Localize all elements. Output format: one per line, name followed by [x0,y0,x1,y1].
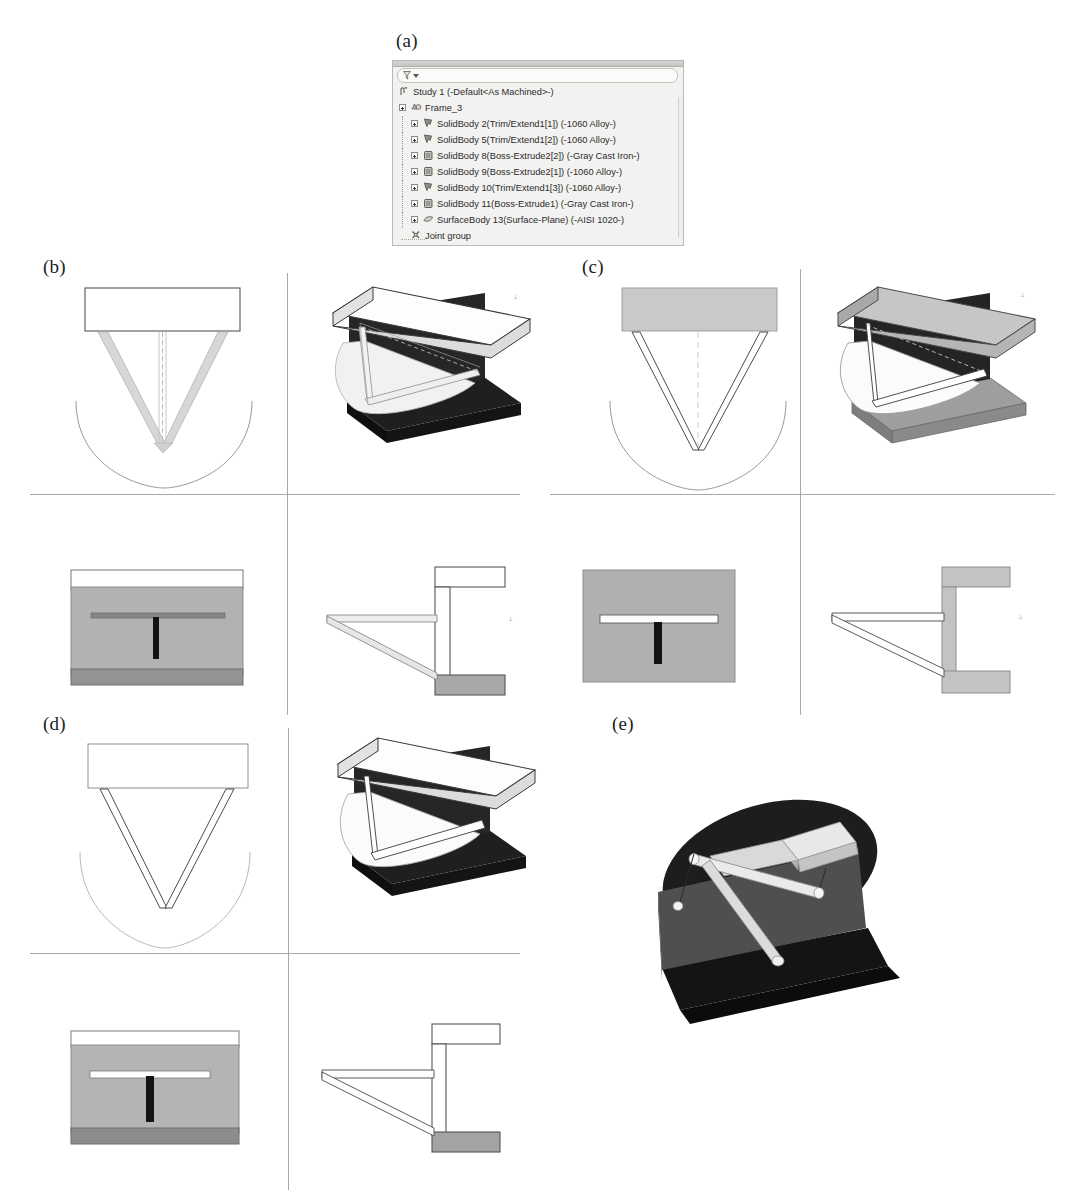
tree-row-label: SolidBody 11(Boss-Extrude1) (-Gray Cast … [437,196,634,212]
tree-row[interactable]: SolidBody 10(Trim/Extend1[3]) (-1060 All… [395,180,677,196]
quadrant-panel-b: ⊥ ⊥ [30,255,550,715]
tree-row-label: SolidBody 8(Boss-Extrude2[2]) (-Gray Cas… [437,148,640,164]
tree-expander-icon[interactable] [411,184,418,191]
tree-row-label: Joint group [425,228,471,244]
origin-marker: ⊥ [513,294,518,300]
isometric-view-d[interactable] [330,736,545,926]
quadrant-divider-horizontal [30,494,520,495]
tree-row[interactable]: SolidBody 8(Boss-Extrude2[2]) (-Gray Cas… [395,148,677,164]
tree-row-label: Frame_3 [425,100,462,116]
funnel-filter-icon [403,71,411,80]
origin-marker: ⊥ [1020,292,1025,298]
tree-row-label: Study 1 (-Default<As Machined>-) [413,84,554,100]
tree-guide-line [402,148,404,164]
quadrant-divider-horizontal [30,953,520,954]
top-view-b[interactable] [68,567,248,697]
tree-expander-icon[interactable] [411,168,418,175]
panel-label-a: (a) [396,30,418,52]
quadrant-divider-vertical [287,273,288,715]
tree-guide-line [402,180,404,196]
tree-row[interactable]: SolidBody 9(Boss-Extrude2[1]) (-1060 All… [395,164,677,180]
front-view-b[interactable] [46,283,276,483]
tree-expander-icon[interactable] [399,104,406,111]
tree-guide-line [402,164,404,180]
tree-row-label: SolidBody 9(Boss-Extrude2[1]) (-1060 All… [437,164,622,180]
origin-marker: ⊥ [508,616,513,622]
tree-expander-icon[interactable] [411,120,418,127]
right-view-d[interactable] [320,1022,520,1160]
tree-guide-line [402,132,404,148]
boss-extrude-body-icon [423,166,434,177]
isometric-view-c[interactable]: ⊥ [830,283,1045,473]
front-view-d[interactable] [50,740,280,940]
feature-tree-panel[interactable]: Study 1 (-Default<As Machined>-) Frame_3… [392,60,684,246]
boss-extrude-body-icon [423,198,434,209]
origin-marker: ⊥ [1018,614,1023,620]
tree-row[interactable]: SolidBody 11(Boss-Extrude1) (-Gray Cast … [395,196,677,212]
boss-extrude-body-icon [423,150,434,161]
tree-more-indicator [401,239,425,243]
top-view-c[interactable] [580,567,740,687]
quadrant-divider-horizontal [550,494,1055,495]
tree-row-list: Study 1 (-Default<As Machined>-) Frame_3… [395,84,677,244]
quadrant-panel-d [30,710,550,1190]
tree-row[interactable]: Study 1 (-Default<As Machined>-) [395,84,677,100]
tree-guide-line [402,212,404,228]
tree-guide-line [402,116,404,132]
isometric-view-b[interactable]: ⊥ [325,283,540,473]
tree-expander-icon[interactable] [411,216,418,223]
tree-guide-line [402,196,404,212]
tree-expander-icon[interactable] [411,136,418,143]
tree-row[interactable]: SurfaceBody 13(Surface-Plane) (-AISI 102… [395,212,677,228]
tree-row-label: SolidBody 2(Trim/Extend1[1]) (-1060 Allo… [437,116,616,132]
chevron-down-icon[interactable] [413,74,419,78]
tree-scrollbar[interactable] [678,97,683,237]
tree-title-strip [393,61,683,67]
trim-extend-body-icon [423,118,434,129]
render-panel-e [600,710,1060,1130]
right-view-c[interactable]: ⊥ [830,563,1030,698]
quadrant-panel-c: ⊥ ⊥ [520,255,1060,715]
tree-row[interactable]: Frame_3 [395,100,677,116]
tree-row[interactable]: Joint group [395,228,677,244]
tree-row-label: SurfaceBody 13(Surface-Plane) (-AISI 102… [437,212,624,228]
study-icon [399,86,410,97]
trim-extend-body-icon [423,182,434,193]
tree-expander-icon[interactable] [411,200,418,207]
tree-row[interactable]: SolidBody 5(Trim/Extend1[2]) (-1060 Allo… [395,132,677,148]
assembly-icon [411,102,422,113]
tree-row-label: SolidBody 10(Trim/Extend1[3]) (-1060 All… [437,180,621,196]
tree-row-label: SolidBody 5(Trim/Extend1[2]) (-1060 Allo… [437,132,616,148]
tree-expander-icon[interactable] [411,152,418,159]
shaded-isometric-render-e[interactable] [650,770,990,1060]
top-view-d[interactable] [68,1028,243,1158]
quadrant-divider-vertical [288,728,289,1190]
right-view-b[interactable]: ⊥ [325,563,520,701]
front-view-c[interactable] [580,283,810,483]
trim-extend-body-icon [423,134,434,145]
tree-filter-input[interactable] [397,68,678,83]
tree-row[interactable]: SolidBody 2(Trim/Extend1[1]) (-1060 Allo… [395,116,677,132]
surface-body-icon [423,214,434,225]
